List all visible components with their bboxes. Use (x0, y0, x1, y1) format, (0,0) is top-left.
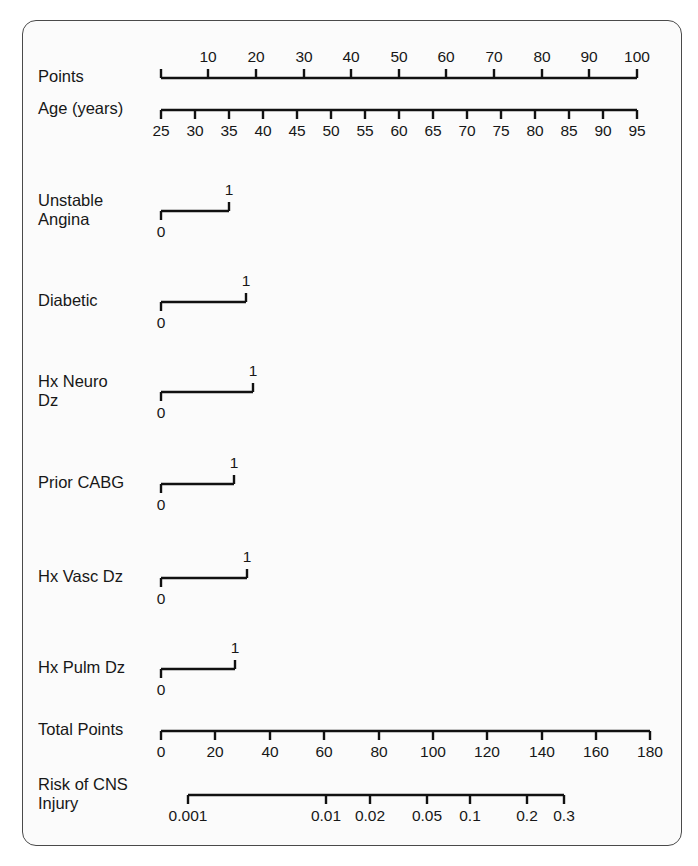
row-label-line: Risk of CNS (38, 775, 128, 794)
tick-label-age-13: 90 (594, 122, 611, 139)
value-label-0-unstable-angina: 0 (157, 223, 166, 240)
value-label-0-hx-vasc-dz: 0 (157, 590, 166, 607)
tick-label-age-5: 50 (322, 122, 339, 139)
tick-label-total-points-2: 40 (261, 743, 278, 760)
tick-label-total-points-4: 80 (370, 743, 387, 760)
value-label-1-prior-cabg: 1 (230, 454, 239, 471)
row-label-line: Angina (38, 210, 103, 229)
tick-label-risk-of-cns-injury-6: 0.3 (553, 807, 575, 824)
row-label-hx-pulm-dz: Hx Pulm Dz (38, 658, 125, 677)
row-label-hx-vasc-dz: Hx Vasc Dz (38, 567, 123, 586)
tick-label-total-points-1: 20 (206, 743, 223, 760)
tick-label-age-9: 70 (458, 122, 475, 139)
tick-label-risk-of-cns-injury-1: 0.01 (311, 807, 341, 824)
row-label-points: Points (38, 67, 84, 86)
tick-label-points-10: 100 (624, 48, 650, 65)
value-label-1-hx-neuro-dz: 1 (249, 362, 258, 379)
tick-label-age-1: 30 (186, 122, 203, 139)
tick-label-age-14: 95 (628, 122, 645, 139)
row-label-line: Hx Pulm Dz (38, 658, 125, 677)
row-label-line: Dz (38, 391, 108, 410)
value-label-0-prior-cabg: 0 (157, 496, 166, 513)
row-label-line: Unstable (38, 191, 103, 210)
row-label-line: Diabetic (38, 291, 98, 310)
tick-label-total-points-0: 0 (157, 743, 166, 760)
tick-label-age-2: 35 (220, 122, 237, 139)
row-label-risk-of-cns-injury: Risk of CNSInjury (38, 775, 128, 813)
row-label-line: Points (38, 67, 84, 86)
tick-label-risk-of-cns-injury-0: 0.001 (169, 807, 208, 824)
tick-label-age-8: 65 (424, 122, 441, 139)
tick-label-total-points-9: 180 (637, 743, 663, 760)
tick-label-risk-of-cns-injury-2: 0.02 (355, 807, 385, 824)
tick-label-points-2: 20 (247, 48, 264, 65)
value-label-1-unstable-angina: 1 (225, 181, 234, 198)
row-label-line: Total Points (38, 720, 123, 739)
row-label-diabetic: Diabetic (38, 291, 98, 310)
tick-label-total-points-6: 120 (474, 743, 500, 760)
tick-label-total-points-7: 140 (529, 743, 555, 760)
value-label-1-hx-pulm-dz: 1 (231, 639, 240, 656)
tick-label-points-9: 90 (580, 48, 597, 65)
row-label-prior-cabg: Prior CABG (38, 473, 124, 492)
tick-label-points-3: 30 (295, 48, 312, 65)
tick-label-risk-of-cns-injury-5: 0.2 (516, 807, 538, 824)
tick-label-risk-of-cns-injury-3: 0.05 (412, 807, 442, 824)
tick-label-age-12: 85 (560, 122, 577, 139)
row-label-age: Age (years) (38, 99, 123, 118)
row-label-line: Injury (38, 794, 128, 813)
row-label-line: Prior CABG (38, 473, 124, 492)
value-label-1-diabetic: 1 (242, 272, 251, 289)
tick-label-age-7: 60 (390, 122, 407, 139)
value-label-0-hx-neuro-dz: 0 (157, 404, 166, 421)
tick-label-age-11: 80 (526, 122, 543, 139)
row-label-unstable-angina: UnstableAngina (38, 191, 103, 229)
row-label-total-points: Total Points (38, 720, 123, 739)
row-label-hx-neuro-dz: Hx NeuroDz (38, 372, 108, 410)
row-label-line: Hx Vasc Dz (38, 567, 123, 586)
tick-label-total-points-3: 60 (315, 743, 332, 760)
tick-label-age-6: 55 (356, 122, 373, 139)
tick-label-points-8: 80 (533, 48, 550, 65)
value-label-0-diabetic: 0 (157, 314, 166, 331)
tick-label-risk-of-cns-injury-4: 0.1 (459, 807, 481, 824)
tick-label-points-5: 50 (390, 48, 407, 65)
tick-label-age-0: 25 (152, 122, 169, 139)
tick-label-points-4: 40 (342, 48, 359, 65)
tick-label-age-4: 45 (288, 122, 305, 139)
value-label-1-hx-vasc-dz: 1 (243, 548, 252, 565)
tick-label-points-7: 70 (485, 48, 502, 65)
value-label-0-hx-pulm-dz: 0 (157, 681, 166, 698)
tick-label-total-points-8: 160 (583, 743, 609, 760)
tick-label-total-points-5: 100 (420, 743, 446, 760)
row-label-line: Age (years) (38, 99, 123, 118)
tick-label-points-1: 10 (199, 48, 216, 65)
tick-label-age-3: 40 (254, 122, 271, 139)
row-label-line: Hx Neuro (38, 372, 108, 391)
tick-label-age-10: 75 (492, 122, 509, 139)
tick-label-points-6: 60 (437, 48, 454, 65)
